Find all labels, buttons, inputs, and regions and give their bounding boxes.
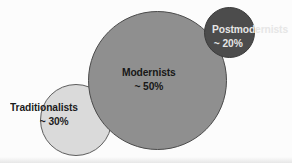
bubble-label-traditionalists-name: Traditionalists (10, 102, 78, 114)
bubble-label-traditionalists: Traditionalists ~ 30% (10, 102, 78, 128)
bubble-chart: Traditionalists ~ 30% Modernists ~ 50% P… (0, 0, 292, 163)
bubble-label-postmodernists: Postmodernists ~ 20% (212, 24, 288, 50)
bubble-label-modernists: Modernists ~ 50% (122, 67, 176, 93)
bubble-label-modernists-value: ~ 50% (122, 81, 176, 93)
bubble-label-traditionalists-value: ~ 30% (30, 116, 78, 128)
bubble-label-postmodernists-value: ~ 20% (214, 38, 288, 50)
bubble-label-postmodernists-name: Postmodernists (212, 24, 288, 36)
bubble-label-modernists-name: Modernists (122, 67, 176, 79)
